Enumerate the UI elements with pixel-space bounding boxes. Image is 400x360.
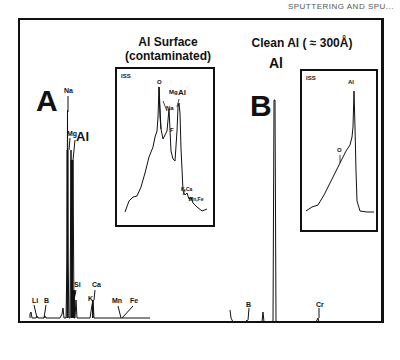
inset-a-label-kca: K,Ca [181,187,192,192]
panel-b-letter: B [250,91,272,121]
inset-a-label-al: Al [178,89,186,97]
peak-label-na: Na [64,87,73,94]
peak-label-li: Li [32,297,38,304]
frame-divider [381,18,383,323]
peak-label-mn: Mn [112,297,122,304]
panel-a-title: Al Surface (contaminated) [118,36,218,64]
panel-a-title-line1: Al Surface [118,36,218,50]
inset-a: ISS O Mg Al Na F K,Ca Mn,Fe [115,67,215,227]
peak-label-ca: Ca [92,281,101,288]
peak-label-cr: Cr [316,301,324,308]
peak-label-b-b: B [246,301,251,308]
peak-label-k: K [88,295,93,302]
inset-a-label-o: O [157,79,162,85]
inset-b: ISS Al O [300,69,378,232]
inset-b-label-al: Al [348,79,354,85]
peak-label-b-a: B [44,297,49,304]
inset-a-label-na: Na [166,105,174,111]
inset-a-label-mnfe: Mn,Fe [189,197,203,202]
inset-a-label-f: F [170,127,174,133]
inset-a-label-mg: Mg [169,89,178,95]
inset-a-spectrum [117,69,217,229]
panel-b-title: Clean Al ( ≈ 300Å) [242,37,362,51]
peak-label-si: Si [74,281,81,288]
inset-b-label-o: O [337,147,342,153]
panel-a-title-line2: (contaminated) [118,50,218,64]
peak-label-fe: Fe [130,297,138,304]
panel-a-letter: A [36,86,58,116]
peak-label-al-a: Al [76,130,89,143]
peak-label-al-b: Al [269,56,283,70]
